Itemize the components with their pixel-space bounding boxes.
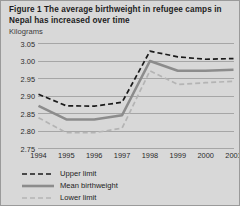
x-axis: 19941995199619971998199920002001 [38, 151, 234, 163]
legend-swatch-dashed-upper [21, 169, 55, 178]
y-axis-tick-label: 2.85 [21, 109, 35, 118]
legend-label-mean-birthweight: Mean birthweight [60, 181, 118, 190]
y-axis-tick-label: 3.00 [21, 57, 35, 66]
legend-label-lower-limit: Lower limit [60, 193, 96, 202]
x-axis-tick-label: 2001 [225, 151, 240, 160]
y-axis-tick-label: 3.05 [21, 39, 35, 48]
series-line [39, 61, 234, 119]
figure-title: Figure 1 The average birthweight in refu… [9, 5, 233, 26]
figure-container: Figure 1 The average birthweight in refu… [0, 0, 240, 206]
y-axis: 2.752.802.852.902.953.003.05 [1, 43, 35, 149]
x-axis-tick-label: 1994 [30, 151, 46, 160]
y-axis-tick-label: 2.80 [21, 127, 35, 136]
x-axis-tick-label: 1997 [114, 151, 130, 160]
x-axis-tick-label: 1999 [170, 151, 186, 160]
legend-item-mean-birthweight: Mean birthweight [21, 179, 221, 191]
legend-item-upper-limit: Upper limit [21, 167, 221, 179]
y-axis-unit-label: Kilograms [9, 27, 43, 36]
chart-svg [38, 43, 234, 149]
y-axis-tick-label: 2.90 [21, 92, 35, 101]
legend-swatch-dashed-lower [21, 193, 55, 202]
data-series-group [39, 51, 234, 133]
legend-label-upper-limit: Upper limit [60, 169, 96, 178]
x-axis-tick-label: 1996 [86, 151, 102, 160]
chart-legend: Upper limit Mean birthweight Lower limit [21, 167, 221, 203]
x-axis-tick-label: 2000 [197, 151, 213, 160]
plot-area [38, 43, 234, 149]
series-line [39, 71, 234, 133]
y-axis-tick-label: 2.95 [21, 74, 35, 83]
legend-item-lower-limit: Lower limit [21, 191, 221, 203]
x-axis-tick-label: 1998 [142, 151, 158, 160]
x-axis-tick-label: 1995 [58, 151, 74, 160]
legend-swatch-solid-mean [21, 181, 55, 190]
